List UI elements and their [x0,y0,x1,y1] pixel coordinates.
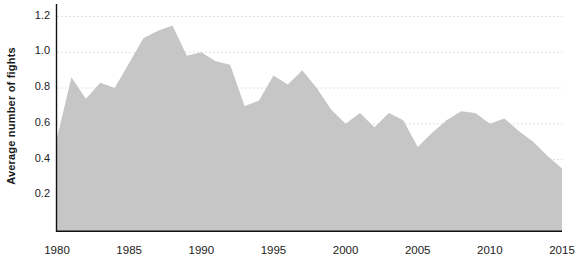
y-axis-title: Average number of fights [0,0,22,232]
x-axis-tick-label: 2010 [470,244,510,256]
y-axis-tick-label: 1.2 [24,9,50,21]
y-axis-tick-label: 0.6 [24,116,50,128]
x-axis-tick-label: 1985 [109,244,149,256]
x-axis-tick-label: 2015 [542,244,579,256]
y-axis-title-text: Average number of fights [5,47,17,185]
area-series [57,25,562,231]
x-axis-tick-label: 2005 [398,244,438,256]
y-axis-tick-label: 0.2 [24,187,50,199]
x-axis-tick-label: 1995 [253,244,293,256]
plot-area: 0.20.40.60.81.01.2 198019851990199520002… [24,4,562,232]
x-axis-tick-label: 2000 [326,244,366,256]
y-axis-tick-label: 0.8 [24,80,50,92]
y-axis-tick-label: 1.0 [24,44,50,56]
x-axis-tick-label: 1990 [181,244,221,256]
chart-svg [24,4,562,232]
x-axis-tick-label: 1980 [37,244,77,256]
y-axis-tick-label: 0.4 [24,152,50,164]
